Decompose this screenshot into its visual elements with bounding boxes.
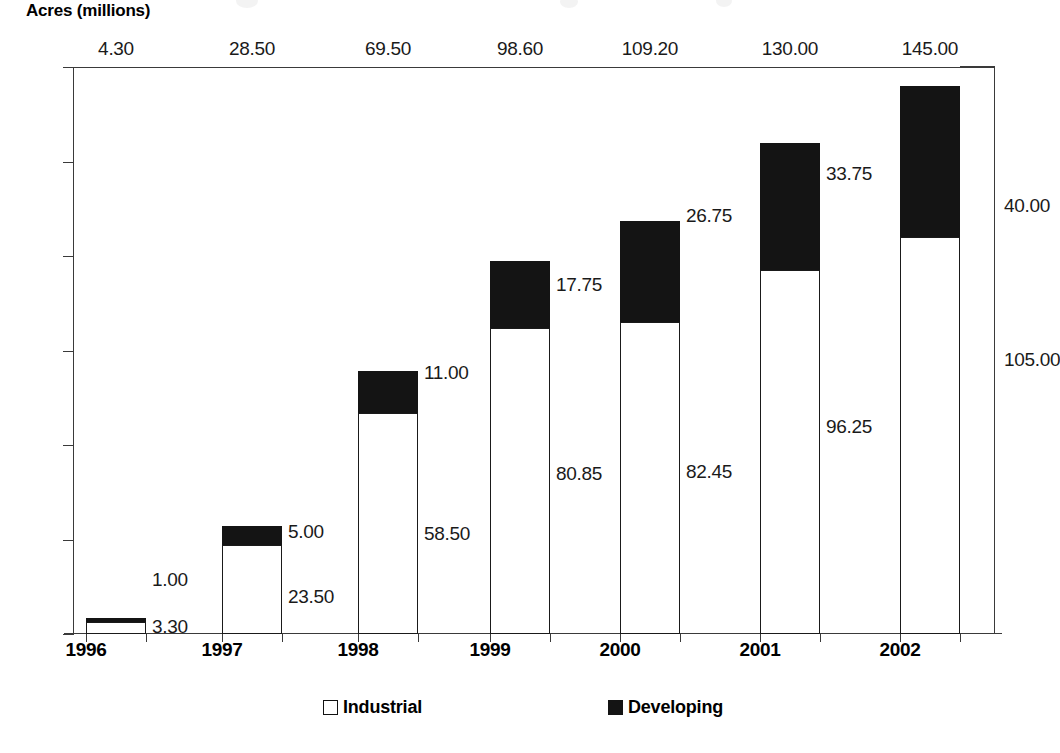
- legend-label-industrial: Industrial: [343, 697, 422, 718]
- bar-2000[interactable]: [620, 221, 680, 634]
- bracket-industrial-lower-2002: [994, 473, 995, 634]
- x-label-2001: 2001: [700, 639, 820, 661]
- x-tick: [282, 633, 283, 642]
- y-tick-0: [63, 634, 74, 635]
- x-label-1996: 1996: [26, 639, 146, 661]
- legend-item-developing[interactable]: Developing: [608, 697, 723, 718]
- bar-segment-industrial-1997[interactable]: [222, 545, 282, 634]
- total-label-2000: 109.20: [595, 38, 705, 60]
- bar-segment-industrial-1996[interactable]: [86, 622, 146, 635]
- y-tick-150: [63, 67, 74, 68]
- x-label-2000: 2000: [560, 639, 680, 661]
- x-tick: [680, 633, 681, 642]
- bar-1996[interactable]: [86, 618, 146, 634]
- bar-segment-developing-2002[interactable]: [900, 86, 960, 237]
- scan-artifact: [716, 0, 732, 7]
- bar-segment-industrial-1998[interactable]: [358, 413, 418, 634]
- bar-2002[interactable]: [900, 86, 960, 634]
- open-square-icon: [323, 700, 338, 715]
- bar-segment-developing-1997[interactable]: [222, 526, 282, 545]
- x-label-1999: 1999: [430, 639, 550, 661]
- bar-segment-industrial-1999[interactable]: [490, 328, 550, 634]
- bar-1997[interactable]: [222, 526, 282, 634]
- developing-label-1999: 17.75: [556, 274, 602, 296]
- developing-label-1998: 11.00: [424, 362, 469, 384]
- x-label-2002: 2002: [840, 639, 960, 661]
- developing-label-1996: 1.00: [152, 569, 188, 591]
- total-label-1996: 4.30: [61, 38, 171, 60]
- chart-legend: Industrial Developing: [0, 697, 1046, 718]
- x-tick: [146, 633, 147, 642]
- industrial-label-2002: 105.00: [1004, 349, 1060, 371]
- x-tick: [418, 633, 419, 642]
- x-tick: [820, 633, 821, 642]
- bar-segment-developing-1996[interactable]: [86, 618, 146, 622]
- bar-1999[interactable]: [490, 261, 550, 634]
- total-label-2002: 145.00: [875, 38, 985, 60]
- industrial-label-1996: 3.30: [152, 616, 188, 638]
- industrial-label-2000: 82.45: [686, 461, 732, 483]
- bracket-developing-lower-2002: [994, 263, 995, 417]
- industrial-label-1997: 23.50: [288, 586, 334, 608]
- total-label-2001: 130.00: [735, 38, 845, 60]
- x-tick: [550, 633, 551, 642]
- plot-area: 150 125 100 75 50 25 0: [73, 67, 995, 634]
- bar-segment-developing-2000[interactable]: [620, 221, 680, 322]
- bar-segment-industrial-2000[interactable]: [620, 322, 680, 634]
- x-tick: [960, 633, 961, 642]
- y-tick-125: [63, 162, 74, 163]
- total-label-1997: 28.50: [197, 38, 307, 60]
- x-label-1998: 1998: [298, 639, 418, 661]
- filled-square-icon: [608, 700, 623, 715]
- legend-label-developing: Developing: [628, 697, 723, 718]
- y-tick-100: [63, 256, 74, 257]
- scan-artifact: [236, 0, 258, 8]
- bar-segment-industrial-2001[interactable]: [760, 270, 820, 634]
- bar-segment-developing-2001[interactable]: [760, 143, 820, 271]
- y-axis-title: Acres (millions): [26, 1, 150, 21]
- x-label-1997: 1997: [162, 639, 282, 661]
- developing-label-2001: 33.75: [826, 163, 872, 185]
- bar-segment-industrial-2002[interactable]: [900, 237, 960, 634]
- y-tick-75: [63, 351, 74, 352]
- total-label-1999: 98.60: [465, 38, 575, 60]
- bar-1998[interactable]: [358, 371, 418, 634]
- plot-top-border: [73, 67, 995, 68]
- y-tick-25: [63, 540, 74, 541]
- developing-label-1997: 5.00: [288, 521, 324, 543]
- bracket-top-cap-2002: [960, 66, 995, 67]
- developing-label-2000: 26.75: [686, 205, 732, 227]
- y-tick-50: [63, 445, 74, 446]
- bar-segment-developing-1999[interactable]: [490, 261, 550, 328]
- industrial-label-1998: 58.50: [424, 523, 470, 545]
- legend-item-industrial[interactable]: Industrial: [323, 697, 422, 718]
- total-label-1998: 69.50: [333, 38, 443, 60]
- scan-artifact: [560, 0, 578, 8]
- bracket-developing-upper-2002: [994, 67, 995, 207]
- industrial-label-2001: 96.25: [826, 416, 872, 438]
- industrial-label-1999: 80.85: [556, 463, 602, 485]
- bar-segment-developing-1998[interactable]: [358, 371, 418, 413]
- developing-label-2002: 40.00: [1004, 195, 1050, 217]
- bar-2001[interactable]: [760, 143, 820, 634]
